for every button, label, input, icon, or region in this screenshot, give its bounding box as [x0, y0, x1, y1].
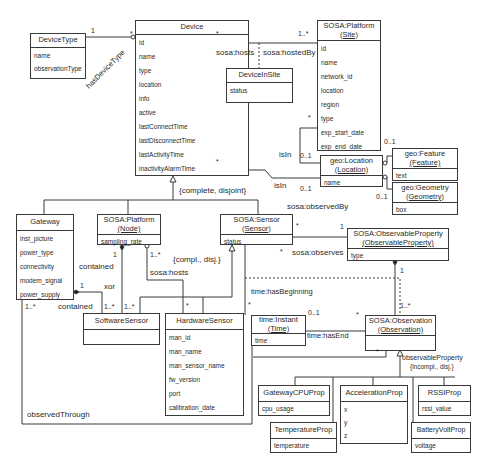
- label-sosa-hosts: sosa:hosts: [216, 48, 254, 57]
- class-geo-location[interactable]: geo:Location (Location) name: [320, 155, 383, 187]
- class-platform-node[interactable]: SOSA:Platform (Node) sampling_rate: [97, 214, 161, 245]
- attr: network_id: [321, 70, 377, 84]
- label-is-in-site: isIn: [279, 150, 291, 159]
- class-geo-feature[interactable]: geo:Feature (Feature) text: [392, 148, 458, 181]
- attr: active: [139, 106, 245, 120]
- class-name-main: SOSA:Platform: [104, 215, 155, 224]
- class-name-sub: (Location): [322, 166, 381, 175]
- mult: 0..1: [300, 152, 312, 159]
- attr: man_name: [169, 345, 240, 359]
- mult: *: [376, 348, 379, 355]
- class-battery-volt-prop[interactable]: BatteryVoltProp voltage: [411, 422, 471, 453]
- class-name: TemperatureProp: [271, 423, 336, 439]
- class-acceleration-prop[interactable]: AccelerationProp x y z: [340, 385, 408, 444]
- class-device-in-site[interactable]: DeviceInSite status: [226, 68, 293, 103]
- attr: man_id: [169, 331, 240, 345]
- mult: 0..1: [308, 309, 320, 316]
- attr: fw_version: [169, 373, 240, 387]
- class-name-sub: (ObservableProperty): [349, 239, 447, 248]
- attr: location: [321, 84, 377, 98]
- attr: y: [344, 416, 404, 429]
- mult: *: [130, 30, 133, 37]
- attr: modem_signal: [20, 274, 70, 288]
- attr: name: [34, 49, 82, 62]
- attr: lastActivityTime: [139, 148, 245, 162]
- attr: sampling_rate: [101, 236, 157, 247]
- mult: 1: [340, 223, 344, 230]
- attr: connectivity: [20, 260, 70, 274]
- class-hardware-sensor[interactable]: HardwareSensor man_id man_name man_senso…: [165, 313, 244, 416]
- mult: 1..*: [104, 303, 115, 310]
- class-platform-site[interactable]: SOSA:Platform (Site) id name network_id …: [317, 20, 381, 151]
- class-gateway-cpu-prop[interactable]: GatewayCPUProp cpu_usage: [258, 385, 330, 416]
- class-name-main: SOSA:Sensor: [233, 215, 280, 224]
- attr: status: [230, 84, 289, 97]
- class-name-sub: (Site): [319, 31, 379, 40]
- class-name-sub: (Feature): [394, 159, 456, 168]
- class-name: time:Instant (Time): [252, 316, 305, 334]
- mult: 0..1: [300, 185, 312, 192]
- class-geo-geometry[interactable]: geo:Geometry (Geometry) box: [392, 182, 458, 215]
- class-name: SOSA:Observation (Observation): [366, 316, 435, 336]
- attr: name: [321, 56, 377, 70]
- label-sosa-observes: sosa:observes: [292, 248, 344, 257]
- attr: power_supply: [20, 288, 70, 302]
- attr: observationType: [34, 62, 82, 75]
- attr: inst_picture: [20, 232, 70, 246]
- label-sosa-hosts-node: sosa:hosts: [150, 268, 188, 277]
- class-name: DeviceType: [31, 34, 85, 48]
- class-temperature-prop[interactable]: TemperatureProp temperature: [270, 422, 337, 453]
- class-name: geo:Feature (Feature): [393, 149, 457, 169]
- class-name-main: geo:Geometry: [401, 183, 449, 192]
- mult: 1: [80, 282, 84, 289]
- mult: *: [280, 248, 283, 255]
- mult: 1: [400, 267, 404, 274]
- attr: time: [255, 335, 302, 346]
- attr: man_sensor_name: [169, 359, 240, 373]
- class-device-type[interactable]: DeviceType name observationType: [30, 33, 86, 79]
- class-name: AccelerationProp: [341, 386, 407, 402]
- mult: 1..*: [298, 30, 309, 37]
- class-name: Device: [136, 21, 248, 35]
- mult: *: [186, 302, 189, 309]
- class-gateway[interactable]: Gateway inst_picture power_type connecti…: [16, 214, 74, 300]
- class-name: SOSA:Sensor (Sensor): [221, 215, 292, 235]
- class-name: geo:Location (Location): [321, 156, 382, 176]
- mult: 1..*: [124, 303, 135, 310]
- mult: 0..1: [376, 193, 388, 200]
- class-name-sub: (Geometry): [394, 193, 456, 202]
- class-name-main: geo:Location: [330, 156, 373, 165]
- attr: region: [321, 98, 377, 112]
- class-name-main: SOSA:Observation: [369, 316, 432, 325]
- class-name: Gateway: [17, 215, 73, 231]
- attr: calibration_date: [169, 401, 240, 415]
- attr: z: [344, 429, 404, 442]
- label-xor: xor: [104, 282, 115, 291]
- class-observation[interactable]: SOSA:Observation (Observation): [365, 315, 436, 351]
- class-name-main: geo:Feature: [405, 149, 445, 158]
- class-name: geo:Geometry (Geometry): [393, 183, 457, 203]
- class-sensor[interactable]: SOSA:Sensor (Sensor) status: [220, 214, 293, 245]
- class-name: SoftwareSensor: [84, 314, 159, 330]
- mult: 1..*: [25, 303, 36, 310]
- class-name: HardwareSensor: [166, 314, 243, 330]
- attr: cpu_usage: [262, 403, 326, 415]
- class-observable-property[interactable]: SOSA:ObservableProperty (ObservablePrope…: [347, 228, 449, 261]
- class-software-sensor[interactable]: SoftwareSensor: [83, 313, 160, 345]
- mult: *: [356, 311, 359, 318]
- attr: type: [351, 250, 445, 262]
- label-has-device-type: hasDeviceType: [84, 48, 127, 91]
- attr: inactivityAlarmTime: [139, 162, 245, 176]
- attr: x: [344, 403, 404, 416]
- label-contained-gateway: contained: [58, 302, 93, 311]
- attr: exp_start_date: [321, 126, 377, 140]
- mult: 0..1: [384, 138, 396, 145]
- class-time-instant[interactable]: time:Instant (Time) time: [251, 315, 306, 346]
- class-name-main: SOSA:ObservableProperty: [353, 229, 443, 238]
- class-name: SOSA:Platform (Node): [98, 215, 160, 235]
- attr: id: [321, 42, 377, 56]
- label-incompl-disj: {incompl., disj.}: [410, 363, 454, 370]
- attr: voltage: [415, 440, 467, 452]
- class-rssi-prop[interactable]: RSSIProp rssi_value: [418, 385, 471, 416]
- attr: status: [224, 236, 289, 247]
